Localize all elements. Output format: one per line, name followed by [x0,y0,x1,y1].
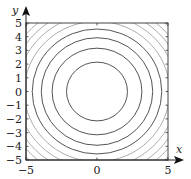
contour-line [41,38,152,146]
x-tick-label: 0 [94,164,101,177]
x-axis-label: x [176,143,183,156]
x-tick-labels: −505 [18,164,172,177]
y-tick-label: 5 [15,17,22,30]
contour-line [52,48,142,135]
y-tick-labels: −5−4−3−2−1012345 [6,17,22,167]
contour-line [11,8,184,175]
y-tick-label: 4 [15,31,22,44]
y-tick-label: −5 [6,154,22,167]
contour-line [67,62,128,121]
plot-frame [26,23,168,160]
y-tick-label: 1 [15,72,22,85]
tick-marks [26,23,168,160]
y-tick-label: −2 [6,113,22,126]
y-tick-label: −1 [6,99,22,112]
x-tick-label: 5 [165,164,172,177]
contour-plot: x y −505 −5−4−3−2−1012345 [0,0,191,179]
y-tick-label: 3 [15,44,22,57]
y-tick-label: −3 [6,127,22,140]
y-tick-label: 2 [15,58,22,71]
y-tick-label: 0 [15,86,22,99]
contour-line [24,21,169,161]
contour-line [0,0,191,179]
contour-lines [0,0,191,179]
y-tick-label: −4 [6,140,22,153]
y-axis-label: y [11,4,19,17]
